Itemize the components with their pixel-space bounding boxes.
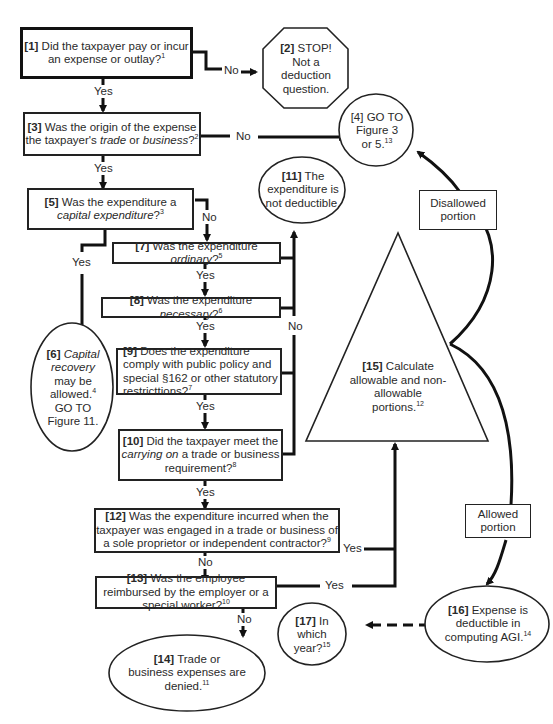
node-text: Calculate bbox=[386, 360, 434, 372]
footnote: 14 bbox=[523, 630, 531, 637]
node-number: [2] bbox=[280, 42, 294, 54]
node-text: Trade or bbox=[177, 653, 220, 665]
node-12-sole-proprietor-question: [12] Was the expenditure incurred when t… bbox=[94, 508, 340, 553]
edge-label-yes: Yes bbox=[194, 400, 217, 413]
node-number: [10] bbox=[123, 435, 143, 447]
node-text: may be bbox=[54, 375, 92, 387]
footnote: 4 bbox=[92, 387, 96, 394]
edge-label-yes: Yes bbox=[194, 320, 217, 333]
node-number: [5] bbox=[45, 196, 59, 208]
node-1-expense-question: [1] Did the taxpayer pay or incur an exp… bbox=[20, 27, 193, 79]
edge-label-no: No bbox=[196, 556, 215, 569]
node-number: [6] bbox=[46, 348, 60, 360]
node-8-necessary-question: [8] Was the expenditure necessary?6 bbox=[101, 297, 281, 318]
node-text: or 5. bbox=[362, 138, 385, 150]
node-number: [9] bbox=[123, 345, 137, 357]
footnote: 13 bbox=[385, 137, 393, 144]
footnote: 5 bbox=[219, 252, 223, 259]
disallowed-portion-label: Disallowedportion bbox=[419, 190, 497, 230]
node-text: computing AGI. bbox=[445, 631, 524, 643]
node-text: The bbox=[305, 170, 325, 182]
node-text: Did the taxpayer pay or incur an expense… bbox=[42, 40, 189, 66]
node-text: GO TO bbox=[367, 111, 404, 123]
node-text: denied. bbox=[164, 680, 202, 692]
node-number: [3] bbox=[28, 121, 42, 133]
node-text: Does the expenditure comply with public … bbox=[123, 345, 278, 398]
footnote: 12 bbox=[416, 400, 424, 407]
edge-label-yes: Yes bbox=[92, 162, 115, 175]
footnote: 7 bbox=[188, 384, 192, 391]
node-text: a trade or business requirement? bbox=[165, 448, 280, 474]
node-text: GO TO bbox=[55, 402, 92, 414]
node-number: [7] bbox=[135, 240, 149, 252]
node-number: [1] bbox=[24, 40, 38, 52]
node-text: Did the taxpayer meet the bbox=[146, 435, 278, 447]
node-number: [16] bbox=[448, 604, 468, 616]
node-number: [11] bbox=[282, 170, 302, 182]
edge-label-yes: Yes bbox=[92, 85, 115, 98]
footnote: 15 bbox=[322, 641, 330, 648]
node-text: question. bbox=[283, 83, 330, 95]
node-text: Was the expenditure a bbox=[62, 196, 177, 208]
node-text: or bbox=[126, 134, 143, 146]
node-number: [15] bbox=[362, 360, 382, 372]
node-text-italic: capital expenditure bbox=[57, 209, 154, 221]
node-text: expenditure is bbox=[267, 183, 339, 195]
node-5-capital-question: [5] Was the expenditure acapital expendi… bbox=[27, 188, 194, 230]
footnote: 6 bbox=[218, 307, 222, 314]
node-3-origin-question: [3] Was the origin of the expense the ta… bbox=[23, 112, 201, 156]
label-text: Allowed bbox=[478, 508, 518, 520]
node-number: [17] bbox=[295, 615, 315, 627]
node-text: STOP! bbox=[297, 42, 331, 54]
node-4-goto-figure: [4] GO TOFigure 3or 5.13 bbox=[344, 103, 410, 159]
node-text: Figure 3 bbox=[356, 124, 398, 136]
node-text: Expense is bbox=[472, 604, 528, 616]
node-text: deduction bbox=[281, 69, 331, 81]
node-text: not deductible. bbox=[266, 197, 341, 209]
node-16-deductible-agi: [16] Expense isdeductible incomputing AG… bbox=[436, 600, 540, 648]
node-text: Not a bbox=[292, 56, 320, 68]
footnote: 9 bbox=[327, 536, 331, 543]
footnote: 3 bbox=[160, 208, 164, 215]
node-number: [4] bbox=[351, 111, 364, 123]
footnote: 1 bbox=[161, 52, 165, 59]
node-17-which-year: [17] Inwhichyear?15 bbox=[284, 612, 340, 658]
edge-label-no: No bbox=[286, 320, 305, 333]
node-text-italic: ordinary bbox=[171, 253, 213, 265]
edge-label-no: No bbox=[222, 64, 241, 77]
node-15-calculate-portions: [15] Calculateallowable and non-allowabl… bbox=[346, 356, 450, 418]
node-text: Was the expenditure incurred when the ta… bbox=[96, 510, 338, 549]
node-13-reimbursed-question: [13] Was the employee reimbursed by the … bbox=[95, 576, 277, 609]
node-text-italic: Capital bbox=[64, 348, 100, 360]
node-text: business expenses are bbox=[128, 666, 246, 678]
allowed-portion-label: Allowedportion bbox=[465, 504, 531, 538]
node-text: which bbox=[297, 628, 326, 640]
label-text: portion bbox=[480, 521, 515, 533]
node-text: In bbox=[319, 615, 329, 627]
edge-label-no: No bbox=[235, 613, 254, 626]
node-2-stop: [2] STOP!Not adeductionquestion. bbox=[266, 36, 346, 102]
edge-label-no: No bbox=[234, 130, 253, 143]
node-text: Figure 11. bbox=[48, 415, 99, 427]
node-11-not-deductible: [11] Theexpenditure isnot deductible. bbox=[262, 166, 344, 214]
node-text: deductible in bbox=[456, 617, 521, 629]
footnote: 11 bbox=[202, 679, 209, 686]
node-6-capital-recovery: [6] Capitalrecoverymay beallowed.4GO TOF… bbox=[36, 340, 110, 436]
node-text: portions. bbox=[372, 401, 416, 413]
footnote: 8 bbox=[232, 461, 236, 468]
edge-label-yes: Yes bbox=[341, 542, 364, 555]
node-number: [13] bbox=[127, 572, 147, 584]
node-text: Was the expenditure bbox=[147, 294, 252, 306]
edge-label-yes: Yes bbox=[194, 486, 217, 499]
node-text-italic: trade bbox=[100, 134, 126, 146]
footnote: 2 bbox=[195, 133, 199, 140]
node-text: allowable bbox=[374, 387, 422, 399]
edge-label-yes: Yes bbox=[323, 579, 346, 592]
node-text-italic: business bbox=[143, 134, 188, 146]
node-number: [8] bbox=[130, 294, 144, 306]
node-10-carrying-on-question: [10] Did the taxpayer meet thecarrying o… bbox=[118, 429, 283, 481]
node-text: Was the expenditure bbox=[153, 240, 258, 252]
node-text-italic: necessary bbox=[160, 308, 212, 320]
label-text: Disallowed bbox=[430, 197, 486, 209]
node-text-italic: recovery bbox=[51, 361, 95, 373]
